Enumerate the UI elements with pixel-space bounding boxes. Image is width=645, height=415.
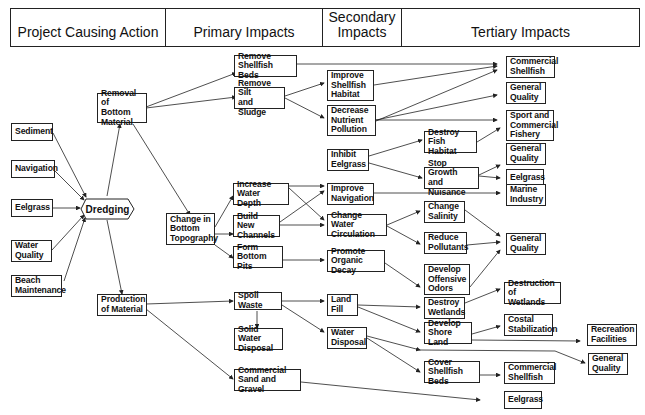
node-recreation-facilities: Recreation Facilities xyxy=(587,324,637,346)
node-marine-industry: Marine Industry xyxy=(506,184,546,206)
node-cover-shellfish-beds: Cover Shellfish Beds xyxy=(424,361,480,383)
node-destruction-wetlands: Destruction of Wetlands xyxy=(504,282,561,304)
node-eelgrass-source: Eelgrass xyxy=(11,199,53,217)
node-general-quality-4: General Quality xyxy=(588,353,628,375)
node-general-quality-2: General Quality xyxy=(506,143,546,165)
node-dredging: Dredging xyxy=(80,198,135,220)
node-commercial-sand-gravel: Commercial Sand and Gravel xyxy=(234,369,301,391)
node-spoil-waste: Spoil Waste xyxy=(234,292,282,310)
node-land-fill: Land Fill xyxy=(327,294,358,316)
node-water-disposal: Water Disposal xyxy=(327,327,367,349)
node-sediment: Sediment xyxy=(11,123,53,141)
node-commercial-shellfish-2: Commercial Shellfish xyxy=(504,362,555,384)
node-change-salinity: Change Salinity xyxy=(424,201,465,223)
node-sport-commercial-fishery: Sport and Commercial Fishery xyxy=(506,110,554,141)
node-eelgrass-3: Eelgrass xyxy=(504,391,542,409)
node-develop-offensive-odors: Develop Offensive Odors xyxy=(424,264,470,295)
node-costal-stabilization: Costal Stabilization xyxy=(504,314,553,336)
node-destroy-wetlands: Destroy Wetlands xyxy=(424,297,465,319)
node-water-quality: Water Quality xyxy=(11,240,52,262)
node-general-quality-3: General Quality xyxy=(506,233,546,255)
node-beach-maintenance: Beach Maintenance xyxy=(11,275,62,297)
node-remove-shellfish-beds: Remove Shellfish Beds xyxy=(234,55,297,77)
node-removal-bottom-material: Removal of Bottom Material xyxy=(97,93,147,123)
node-remove-silt-sludge: Remove Silt and Sludge xyxy=(234,87,285,109)
node-general-quality-1: General Quality xyxy=(506,82,546,104)
node-form-bottom-pits: Form Bottom Pits xyxy=(233,246,283,268)
node-develop-shore-land: Develop Shore Land xyxy=(424,322,472,344)
node-stop-growth-nuisance: Stop Growth and Nuisance xyxy=(424,167,479,189)
node-increase-water-depth: Increase Water Depth xyxy=(233,183,289,205)
node-change-water-circulation: Change Water Circulation xyxy=(327,214,387,236)
node-promote-organic-decay: Promote Organic Decay xyxy=(327,250,385,272)
node-commercial-shellfish-1: Commercial Shellfish xyxy=(506,56,555,78)
node-solid-water-disposal: Solid Water Disposal xyxy=(234,328,283,350)
node-inhibit-eelgrass: Inhibit Eelgrass xyxy=(327,149,369,171)
node-production-material: Production of Material xyxy=(97,294,147,316)
node-change-bottom-topography: Change in Bottom Topography xyxy=(166,213,215,245)
node-improve-shellfish-habitat: Improve Shellfish Habitat xyxy=(327,70,374,101)
node-decrease-nutrient-pollution: Decrease Nutrient Pollution xyxy=(327,105,376,136)
node-destroy-fish-habitat: Destroy Fish Habitat xyxy=(424,131,477,153)
node-build-new-channels: Build New Channels xyxy=(233,215,280,237)
node-improve-navigation: Improve Navigation xyxy=(327,183,374,205)
dredging-label: Dredging xyxy=(86,204,130,215)
node-reduce-pollutants: Reduce Pollutants xyxy=(424,232,467,254)
node-navigation: Navigation xyxy=(11,160,55,178)
